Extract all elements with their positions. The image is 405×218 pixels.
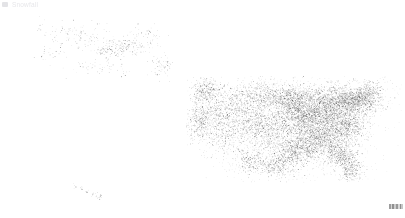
scale-bar	[389, 204, 403, 209]
dot-density-map[interactable]	[0, 0, 405, 218]
